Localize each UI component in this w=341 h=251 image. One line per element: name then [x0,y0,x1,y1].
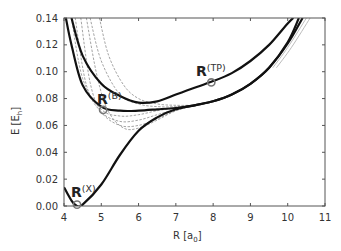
y-tick-label: 0.04 [36,147,58,158]
x-tick-label: 9 [247,212,253,223]
y-tick-label: 0.00 [36,201,58,212]
curve-gray-right-1 [273,18,307,68]
y-tick-label: 0.10 [36,66,58,77]
annotation-rb: R(B) [97,90,122,107]
energy-curve-chart: 4567891011 0.000.020.040.060.080.100.120… [0,0,341,251]
curve-x-state-curve [64,18,299,207]
y-tick-labels: 0.000.020.040.060.080.100.120.14 [36,13,58,212]
annotation-rx: R(X) [71,183,96,200]
y-tick-label: 0.14 [36,13,58,24]
x-tick-labels: 4567891011 [61,212,332,223]
y-axis-label: E [Eh] [10,107,24,135]
x-tick-label: 4 [61,212,67,223]
y-tick-label: 0.12 [36,39,58,50]
x-tick-label: 7 [173,212,179,223]
curve-dashed-4 [75,18,194,122]
y-tick-label: 0.06 [36,120,58,131]
x-tick-label: 8 [210,212,216,223]
x-tick-label: 10 [281,212,294,223]
y-tick-label: 0.02 [36,174,58,185]
x-tick-label: 11 [319,212,332,223]
x-tick-label: 5 [98,212,104,223]
curve-gray-right-2 [277,18,311,68]
y-tick-label: 0.08 [36,93,58,104]
annotation-rtp: R(TP) [196,62,226,79]
x-tick-label: 6 [135,212,141,223]
x-axis-label: R [a0] [173,230,202,244]
